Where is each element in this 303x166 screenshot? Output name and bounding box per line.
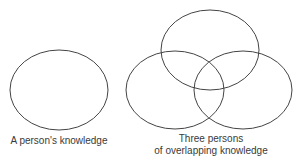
three-persons-caption-line1: Three persons [140, 133, 282, 145]
knowledge-diagram: A person's knowledge Three persons of ov… [0, 0, 303, 166]
single-person-caption: A person's knowledge [0, 135, 118, 147]
single-person-ellipse [10, 50, 108, 130]
three-persons-caption: Three persons of overlapping knowledge [140, 133, 282, 157]
top-person-ellipse [161, 10, 259, 90]
three-persons-caption-line2: of overlapping knowledge [140, 145, 282, 157]
